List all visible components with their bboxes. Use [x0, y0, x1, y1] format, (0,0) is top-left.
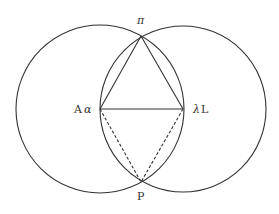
label-alpha: α — [84, 103, 92, 116]
dashed-segment-lambda-p — [141, 109, 183, 182]
segment-lambda-pi — [141, 36, 183, 109]
segment-a-pi — [100, 36, 141, 109]
label-lambda: λ — [192, 103, 200, 116]
label-p: P — [137, 190, 145, 203]
label-pi: π — [136, 14, 145, 27]
label-a: A — [73, 103, 83, 116]
label-l: L — [201, 103, 209, 116]
dashed-segment-a-p — [100, 109, 141, 182]
geometry-diagram: π P A α λ L — [0, 0, 279, 214]
